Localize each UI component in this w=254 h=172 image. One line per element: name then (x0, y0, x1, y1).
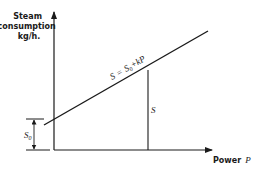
steam-consumption-diagram: Steam consumption kg/h. S = S0+kP S S0 P… (0, 0, 254, 172)
x-axis-label: Power P (213, 155, 251, 165)
consumption-line (44, 31, 208, 125)
intercept-label: S0 (24, 130, 32, 141)
line-equation-label: S = S0+kP (108, 53, 148, 82)
y-axis-label: Steam consumption kg/h. (0, 12, 59, 41)
svg-text:S = S0+kP: S = S0+kP (108, 53, 148, 82)
ordinate-label: S (151, 105, 156, 115)
